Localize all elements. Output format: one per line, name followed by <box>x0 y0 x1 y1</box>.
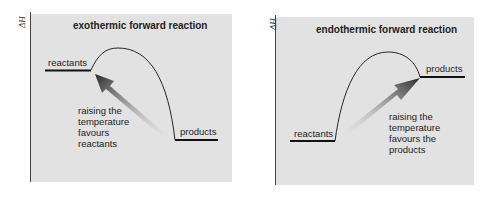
reactants-label: reactants <box>294 128 333 139</box>
annotation-line-3: favours the <box>389 133 436 144</box>
panel-title: exothermic forward reaction <box>73 20 207 31</box>
annotation-line-2: temperature <box>78 116 129 127</box>
annotation-line-4: products <box>389 144 425 155</box>
exothermic-panel: ΔH exothermic forward reaction reactants… <box>0 0 240 199</box>
products-label: products <box>180 126 216 137</box>
panel-title: endothermic forward reaction <box>316 24 457 35</box>
y-axis-label: ΔH <box>17 16 27 28</box>
annotation-line-1: raising the <box>389 111 433 122</box>
endothermic-panel: ΔH endothermic forward reaction reactant… <box>240 0 481 199</box>
products-label: products <box>426 63 462 74</box>
plot-area <box>31 14 232 182</box>
reactants-label: reactants <box>48 57 87 68</box>
annotation-line-2: temperature <box>389 122 440 133</box>
plot-area <box>276 17 474 185</box>
annotation-line-1: raising the <box>78 105 122 116</box>
y-axis-label: ΔH <box>268 18 278 30</box>
annotation-line-4: reactants <box>78 138 117 149</box>
annotation-line-3: favours <box>78 127 109 138</box>
